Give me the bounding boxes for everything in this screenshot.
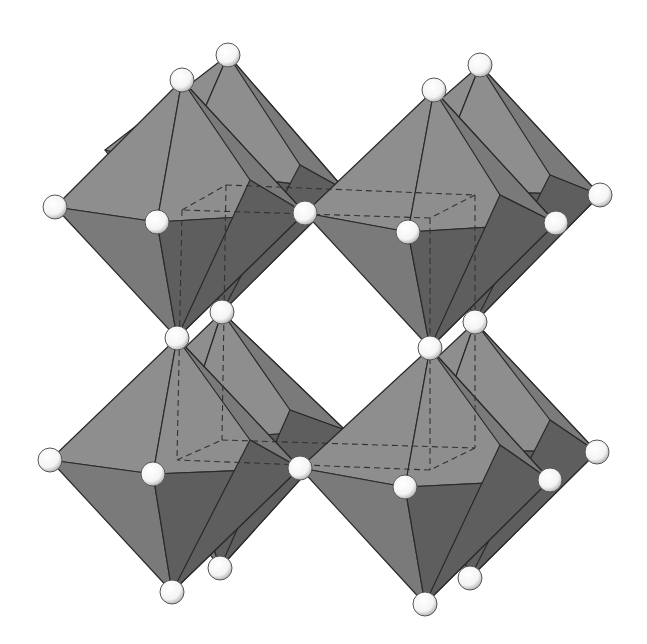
- atom-sphere: [422, 78, 446, 102]
- atom-sphere: [43, 195, 67, 219]
- atom-sphere: [38, 448, 62, 472]
- atom-sphere: [418, 336, 442, 360]
- atom-sphere: [413, 592, 437, 616]
- atom-sphere: [293, 201, 317, 225]
- atom-sphere: [396, 220, 420, 244]
- perovskite-diagram: [0, 0, 647, 644]
- crystal-structure-canvas: [0, 0, 647, 644]
- atom-sphere: [393, 475, 417, 499]
- atom-sphere: [544, 211, 568, 235]
- atom-sphere: [170, 68, 194, 92]
- atom-sphere: [463, 310, 487, 334]
- atom-sphere: [468, 53, 492, 77]
- atom-sphere: [216, 43, 240, 67]
- atom-sphere: [160, 580, 184, 604]
- atom-sphere: [538, 468, 562, 492]
- atom-sphere: [165, 326, 189, 350]
- atom-sphere: [288, 456, 312, 480]
- atom-sphere: [458, 566, 482, 590]
- atom-sphere: [145, 210, 169, 234]
- atom-sphere: [210, 300, 234, 324]
- atom-sphere: [208, 556, 232, 580]
- atom-sphere: [141, 462, 165, 486]
- atom-sphere: [585, 440, 609, 464]
- atom-sphere: [588, 183, 612, 207]
